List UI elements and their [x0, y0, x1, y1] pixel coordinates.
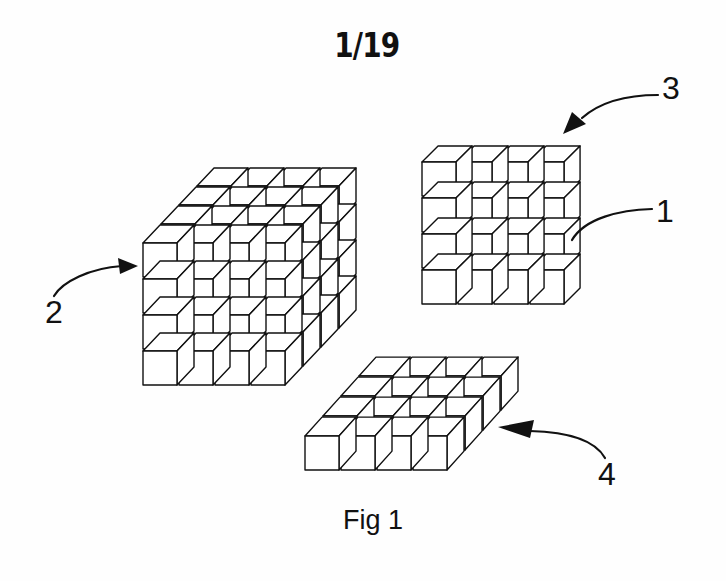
leader-3: [582, 95, 658, 118]
arrowhead-icon: [498, 420, 534, 438]
arrowhead-icon: [563, 112, 586, 134]
leader-4: [530, 431, 605, 458]
figure-drawing: [0, 0, 726, 581]
cube-assemblies: [143, 146, 580, 470]
figure-caption: Fig 1: [343, 505, 403, 536]
reference-label-1: 1: [656, 195, 674, 227]
leader-1: [572, 209, 652, 240]
leader-2: [54, 266, 122, 296]
reference-label-3: 3: [662, 72, 680, 104]
horizontal-panel: [305, 357, 518, 470]
arrowhead-icon: [118, 258, 138, 274]
patent-drawing-sheet: 1/19 1 2 3 4 Fig 1: [0, 0, 726, 581]
vertical-panel: [422, 146, 580, 304]
cube-block: [143, 168, 356, 385]
reference-label-4: 4: [598, 458, 616, 490]
reference-label-2: 2: [45, 296, 63, 328]
